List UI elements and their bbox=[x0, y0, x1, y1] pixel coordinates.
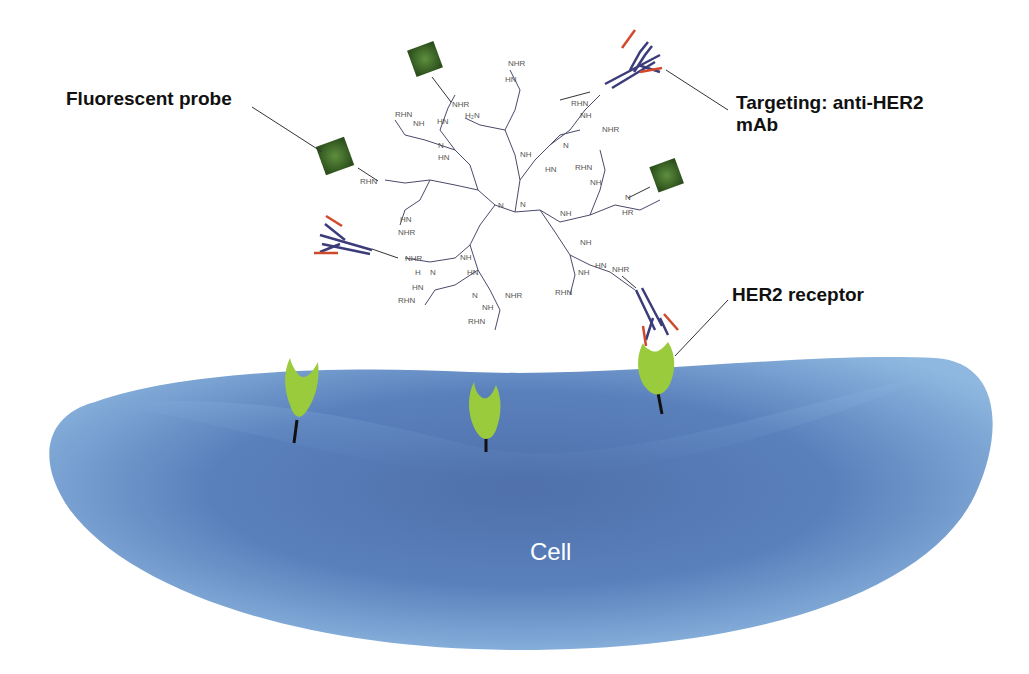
svg-text:RHN: RHN bbox=[571, 99, 589, 108]
svg-text:HN: HN bbox=[412, 283, 424, 292]
targeting-leader-line bbox=[666, 70, 728, 110]
cell-label: Cell bbox=[530, 538, 571, 566]
svg-text:HN: HN bbox=[595, 261, 607, 270]
probe-leader-line bbox=[252, 107, 322, 152]
svg-text:HN: HN bbox=[467, 268, 479, 277]
svg-text:NH: NH bbox=[413, 119, 425, 128]
svg-text:NHR: NHR bbox=[398, 228, 416, 237]
svg-text:NH: NH bbox=[590, 178, 602, 187]
fluorescent-probe-1 bbox=[316, 137, 378, 181]
svg-text:N: N bbox=[520, 200, 526, 209]
svg-text:N: N bbox=[438, 141, 444, 150]
svg-text:N: N bbox=[498, 201, 504, 210]
svg-text:NH: NH bbox=[520, 150, 532, 159]
svg-text:NH: NH bbox=[460, 253, 472, 262]
svg-text:N: N bbox=[430, 268, 436, 277]
svg-text:RHN: RHN bbox=[555, 288, 573, 297]
fluorescent-probe-2 bbox=[407, 41, 451, 102]
antibody-left bbox=[314, 216, 398, 258]
svg-text:H: H bbox=[415, 268, 421, 277]
svg-text:N: N bbox=[472, 291, 478, 300]
targeting-label-line2: mAb bbox=[736, 114, 778, 136]
fluorescent-probe-label: Fluorescent probe bbox=[66, 88, 232, 110]
svg-text:H₂N: H₂N bbox=[465, 111, 480, 120]
svg-text:NH: NH bbox=[580, 238, 592, 247]
targeting-label-line1: Targeting: anti-HER2 bbox=[736, 92, 924, 114]
svg-text:HN: HN bbox=[400, 215, 412, 224]
svg-text:HN: HN bbox=[545, 165, 557, 174]
receptor-leader-line bbox=[675, 300, 728, 356]
svg-text:HN: HN bbox=[505, 75, 517, 84]
svg-text:NH: NH bbox=[560, 209, 572, 218]
svg-text:NHR: NHR bbox=[405, 254, 423, 263]
svg-text:NH: NH bbox=[482, 303, 494, 312]
dendrimer-labels: NHR NHR HN H₂N RHN NH HN N HN RHN HN NHR… bbox=[360, 59, 634, 326]
svg-text:NHR: NHR bbox=[612, 265, 630, 274]
svg-text:NH: NH bbox=[580, 111, 592, 120]
fluorescent-probe-3 bbox=[628, 158, 684, 198]
svg-text:NHR: NHR bbox=[452, 100, 470, 109]
svg-text:RHN: RHN bbox=[360, 177, 378, 186]
svg-text:NHR: NHR bbox=[602, 125, 620, 134]
svg-text:NH: NH bbox=[578, 268, 590, 277]
svg-text:NHR: NHR bbox=[508, 59, 526, 68]
svg-text:NHR: NHR bbox=[505, 291, 523, 300]
diagram-canvas: NHR NHR HN H₂N RHN NH HN N HN RHN HN NHR… bbox=[0, 0, 1029, 674]
her2-receptor-label: HER2 receptor bbox=[732, 284, 864, 306]
svg-text:RHN: RHN bbox=[468, 317, 486, 326]
svg-text:RHN: RHN bbox=[575, 163, 593, 172]
svg-text:HN: HN bbox=[437, 117, 449, 126]
svg-text:HN: HN bbox=[438, 153, 450, 162]
antibody-top-right bbox=[560, 30, 662, 100]
svg-text:RHN: RHN bbox=[398, 296, 416, 305]
cell bbox=[49, 357, 992, 650]
svg-text:RHN: RHN bbox=[395, 110, 413, 119]
svg-text:N: N bbox=[563, 141, 569, 150]
svg-text:HR: HR bbox=[622, 208, 634, 217]
